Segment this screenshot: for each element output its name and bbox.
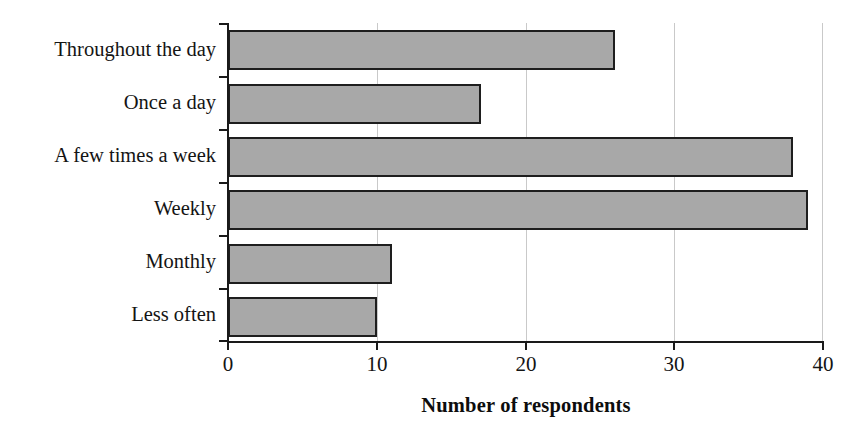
category-label-less-often: Less often: [0, 303, 216, 326]
gridline-40: [822, 23, 823, 341]
bar-a-few-times-a-week[interactable]: [228, 137, 793, 177]
cropped-title-remnant: [0, 0, 852, 6]
x-axis-title: Number of respondents: [228, 394, 824, 417]
bar-monthly[interactable]: [228, 244, 392, 284]
x-axis-tick-40: [822, 341, 824, 350]
x-axis-tick-30: [673, 341, 675, 350]
plot-area: [228, 23, 823, 341]
category-label-monthly: Monthly: [0, 250, 216, 273]
x-axis-tick-10: [376, 341, 378, 350]
category-label-a-few-times-a-week: A few times a week: [0, 144, 216, 167]
y-axis-tick-3: [219, 182, 228, 184]
gridline-20: [526, 23, 527, 341]
gridline-10: [377, 23, 378, 341]
gridline-30: [674, 23, 675, 341]
bar-once-a-day[interactable]: [228, 84, 481, 124]
y-axis-tick-2: [219, 129, 228, 131]
y-axis-tick-0: [219, 23, 228, 25]
x-tick-label-30: 30: [644, 352, 704, 377]
x-tick-label-10: 10: [347, 352, 407, 377]
category-label-throughout-the-day: Throughout the day: [0, 38, 216, 61]
x-axis-tick-0: [227, 341, 229, 350]
bar-weekly[interactable]: [228, 190, 808, 230]
y-axis-tick-4: [219, 235, 228, 237]
y-axis-tick-1: [219, 76, 228, 78]
x-axis-tick-20: [525, 341, 527, 350]
category-label-once-a-day: Once a day: [0, 91, 216, 114]
x-tick-label-40: 40: [793, 352, 852, 377]
bar-less-often[interactable]: [228, 297, 377, 337]
bar-throughout-the-day[interactable]: [228, 30, 615, 70]
bar-chart: Throughout the day Once a day A few time…: [0, 0, 852, 439]
x-tick-label-0: 0: [198, 352, 258, 377]
category-label-weekly: Weekly: [0, 197, 216, 220]
x-tick-label-20: 20: [496, 352, 556, 377]
y-axis-tick-5: [219, 288, 228, 290]
